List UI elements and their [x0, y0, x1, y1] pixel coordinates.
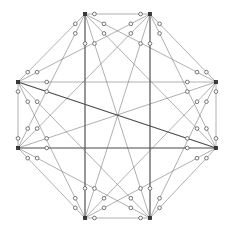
edge-subdivision-dot [73, 206, 77, 210]
edge-subdivision-dot [45, 137, 49, 141]
edge-subdivision-dot [129, 206, 133, 210]
edge-subdivision-dot [45, 80, 49, 84]
edge-subdivision-dot [139, 187, 143, 191]
edge-subdivision-dot [214, 90, 218, 94]
edge-subdivision-dot [102, 196, 106, 200]
octagon-vertex-top-left [83, 12, 86, 15]
octagon-vertex-right-bottom [214, 146, 217, 149]
edge-subdivision-dot [93, 12, 97, 16]
edge-subdivision-dot [93, 216, 97, 220]
edge-subdivision-dot [205, 127, 209, 131]
edge-subdivision-dot [139, 216, 143, 220]
edge-subdivision-dot [195, 70, 199, 74]
edge-subdivision-dot [185, 137, 189, 141]
octagon-vertex-top-right [148, 12, 151, 15]
edge-subdivision-dot [73, 22, 77, 26]
edge-subdivision-dot [129, 22, 133, 26]
edge-subdivision-dot [158, 196, 162, 200]
edge-subdivision-dot [158, 22, 162, 26]
edge-subdivision-dot [35, 127, 39, 131]
edge-subdivision-dot [93, 42, 97, 46]
edge-subdivision-dot [93, 187, 97, 191]
edge-subdivision-dot [148, 187, 152, 191]
edge-subdivision-dot [26, 127, 30, 131]
edge-subdivision-dot [102, 22, 106, 26]
edge-subdivision-dot [185, 80, 189, 84]
edge-subdivision-dot [148, 42, 152, 46]
graph-canvas [0, 0, 232, 233]
edge-subdivision-dot [129, 32, 133, 36]
edge-subdivision-dot [139, 12, 143, 16]
octagon-vertex-left-bottom [16, 146, 19, 149]
octagon-vertex-bottom-left [83, 216, 86, 219]
edge-subdivision-dot [26, 70, 30, 74]
edge-subdivision-dot [16, 137, 20, 141]
edge-subdivision-dot [26, 156, 30, 160]
edge-subdivision-dot [129, 196, 133, 200]
edge-subdivision-dot [195, 100, 199, 104]
edge-subdivision-dot [139, 42, 143, 46]
edge-subdivision-dot [45, 90, 49, 94]
edge-subdivision-dot [35, 156, 39, 160]
edge-subdivision-dot [205, 156, 209, 160]
graph-figure [0, 0, 232, 233]
edge-subdivision-dot [214, 137, 218, 141]
octagon-vertex-right-top [214, 80, 217, 83]
octagon-vertex-left-top [16, 80, 19, 83]
edge-subdivision-dot [16, 90, 20, 94]
edge-subdivision-dot [83, 187, 87, 191]
edge-subdivision-dot [83, 42, 87, 46]
edge-subdivision-dot [26, 100, 30, 104]
octagon-vertex-bottom-right [148, 216, 151, 219]
edge-subdivision-dot [205, 100, 209, 104]
edge-subdivision-dot [35, 70, 39, 74]
edge-subdivision-dot [45, 146, 49, 150]
edge-subdivision-dot [102, 206, 106, 210]
edge-subdivision-dot [73, 32, 77, 36]
edge-subdivision-dot [185, 90, 189, 94]
edge-subdivision-dot [205, 70, 209, 74]
edge-subdivision-dot [195, 127, 199, 131]
edge-subdivision-dot [195, 156, 199, 160]
edge-subdivision-dot [158, 206, 162, 210]
edge-subdivision-dot [73, 196, 77, 200]
edge-subdivision-dot [35, 100, 39, 104]
edge-subdivision-dot [158, 32, 162, 36]
edge-subdivision-dot [185, 146, 189, 150]
edge-subdivision-dot [102, 32, 106, 36]
